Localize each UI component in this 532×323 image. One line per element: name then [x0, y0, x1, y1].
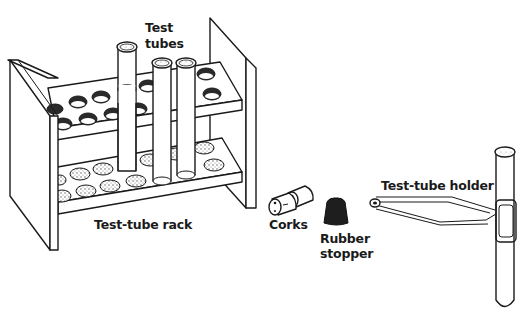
rubber-stopper — [324, 198, 348, 225]
label-corks: Corks — [269, 217, 308, 232]
test-tube-1 — [117, 42, 137, 171]
holder-arms — [370, 197, 516, 242]
label-test-tube-rack: Test-tube rack — [94, 217, 192, 232]
label-rubber-stopper-line2: stopper — [320, 246, 373, 261]
test-tube-holder-assembly — [370, 147, 516, 307]
label-test-tubes-line1: Test — [145, 20, 184, 35]
test-tubes — [117, 42, 196, 185]
label-test-tubes: Test tubes — [145, 20, 184, 51]
test-tube-2 — [152, 58, 172, 185]
equipment-diagram: Test tubes Test-tube rack Corks Rubber s… — [0, 0, 532, 323]
cork-front — [269, 193, 296, 215]
label-test-tube-holder: Test-tube holder — [381, 178, 494, 193]
label-rubber-stopper-line1: Rubber — [320, 231, 373, 246]
test-tube-3 — [176, 58, 196, 179]
diagram-artwork — [0, 0, 532, 323]
held-test-tube — [495, 147, 515, 307]
label-rubber-stopper: Rubber stopper — [320, 231, 373, 261]
label-test-tubes-line2: tubes — [145, 36, 184, 51]
test-tube-rack — [8, 18, 256, 250]
corks — [269, 186, 313, 215]
